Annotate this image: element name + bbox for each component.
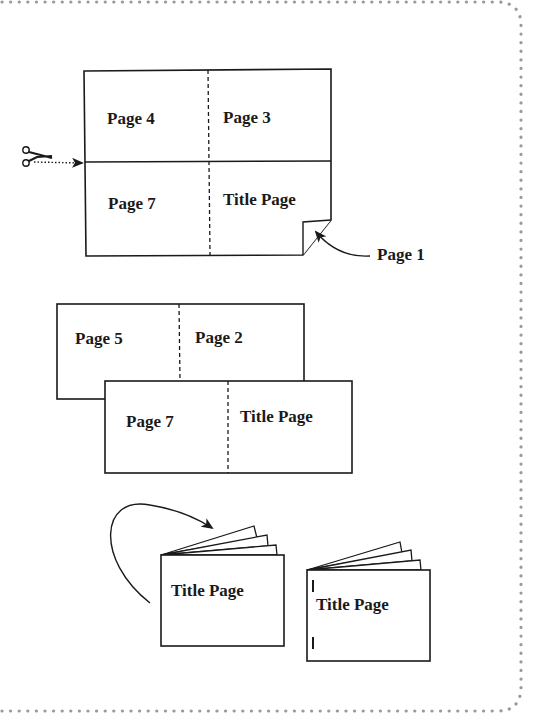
step1-sheet bbox=[84, 69, 331, 256]
horizontal-fold-line bbox=[85, 161, 331, 162]
step1-top-right-label: Page 3 bbox=[223, 108, 271, 127]
diagram-canvas: Page 4 Page 3 Page 7 Title Page Page 1 P… bbox=[0, 0, 548, 714]
booklet-folded-cover-label: Title Page bbox=[171, 581, 244, 600]
scissors-icon bbox=[23, 147, 52, 166]
step1-bottom-left-label: Page 7 bbox=[108, 194, 156, 213]
booklet-stapled-cover-label: Title Page bbox=[316, 595, 389, 614]
step2-back-left-label: Page 5 bbox=[75, 329, 123, 348]
step2-front-left-label: Page 7 bbox=[126, 412, 174, 431]
cut-arrow bbox=[34, 162, 82, 163]
step2-front-right-label: Title Page bbox=[240, 407, 313, 426]
step1-top-left-label: Page 4 bbox=[107, 109, 155, 128]
page1-callout-label: Page 1 bbox=[377, 245, 425, 264]
step1-bottom-right-label: Title Page bbox=[223, 190, 296, 209]
page1-callout-arrow bbox=[316, 232, 370, 256]
step2-back-right-label: Page 2 bbox=[195, 328, 243, 347]
